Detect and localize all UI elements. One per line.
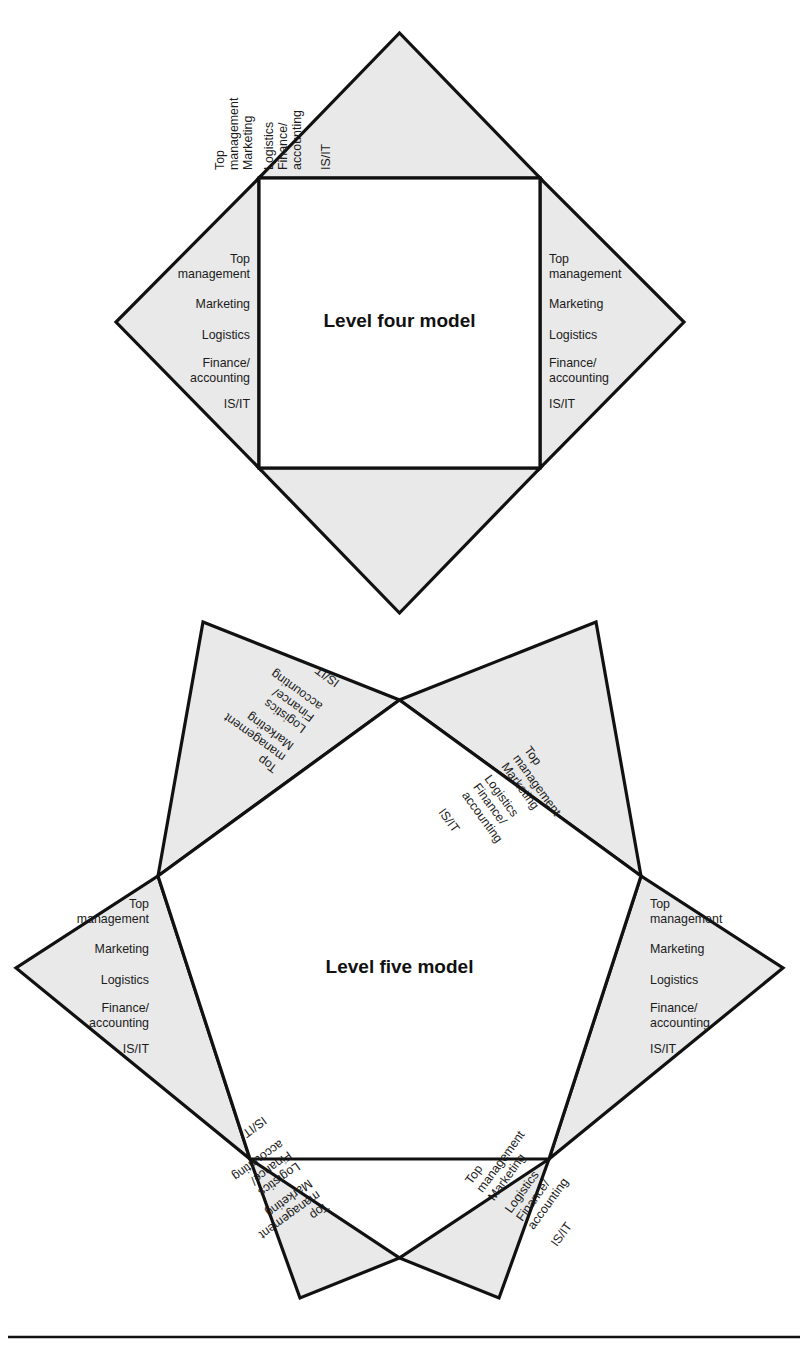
figure-canvas: Level four model Topmanagement Marketing… — [0, 0, 808, 1351]
dept-label: Topmanagement — [213, 97, 241, 170]
level-four-bottom-facet — [259, 468, 540, 613]
level-five-title: Level five model — [326, 956, 474, 977]
dept-label: Marketing — [241, 115, 255, 170]
dept-label: IS/IT — [224, 397, 251, 411]
dept-label: Finance/accounting — [276, 110, 304, 170]
diagram-svg: Level four model Topmanagement Marketing… — [0, 0, 808, 1351]
dept-label: Logistics — [262, 122, 276, 170]
dept-label: Logistics — [650, 973, 698, 987]
dept-label: IS/IT — [650, 1042, 677, 1056]
dept-label: Marketing — [95, 942, 150, 956]
dept-label: Marketing — [196, 297, 251, 311]
level-four-left-facet — [116, 178, 259, 468]
level-four-title: Level four model — [323, 310, 475, 331]
level-four-right-facet — [540, 178, 684, 468]
dept-label: IS/IT — [123, 1042, 150, 1056]
level-four-model: Level four model Topmanagement Marketing… — [0, 33, 684, 613]
dept-label: Topmanagement — [77, 897, 150, 926]
dept-label: IS/IT — [548, 1219, 575, 1249]
dept-label: Marketing — [549, 297, 604, 311]
dept-label: Logistics — [549, 328, 597, 342]
dept-label: Topmanagement — [650, 897, 723, 926]
dept-label: Logistics — [202, 328, 250, 342]
level-five-model: Level five model Topmanagement Marketing… — [16, 622, 783, 1298]
dept-label: Logistics — [101, 973, 149, 987]
dept-label: IS/IT — [549, 397, 576, 411]
dept-label: IS/IT — [319, 143, 333, 170]
dept-label: Marketing — [650, 942, 705, 956]
